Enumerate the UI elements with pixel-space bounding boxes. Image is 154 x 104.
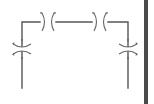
left-wall-upper	[22, 22, 40, 40]
door-swing-arc	[42, 13, 45, 31]
door-top-right	[92, 12, 108, 31]
floor-plan-diagram	[0, 0, 154, 104]
door-swing-arc	[94, 13, 97, 31]
door-swing-arc	[52, 13, 55, 31]
door-top-left	[40, 12, 56, 31]
doors	[12, 12, 138, 58]
door-left	[12, 40, 31, 58]
door-swing-arc	[104, 13, 107, 31]
right-divider-bar	[144, 0, 148, 104]
top-wall-right	[108, 22, 128, 40]
door-right	[119, 40, 138, 58]
walls	[22, 22, 128, 88]
